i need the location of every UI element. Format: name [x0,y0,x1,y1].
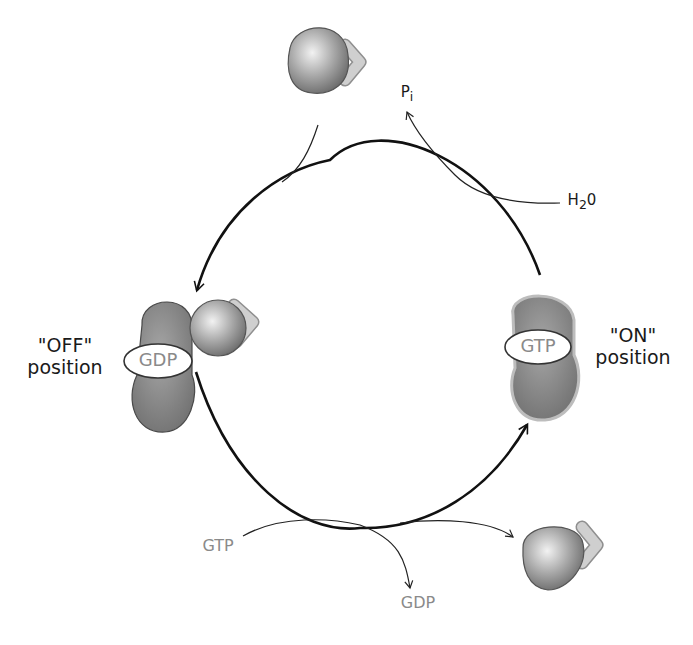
h2o-tail: 0 [587,191,597,209]
off-position-label: "OFF" position [10,335,120,379]
off-label-line2: position [10,357,120,379]
h2o-label: H20 [562,192,602,212]
cycle-arrow-bottom [196,372,527,529]
on-label-line1: "ON" [578,325,688,347]
gtp-input-label: GTP [196,537,240,555]
diagram-graphics [0,0,693,645]
on-position-label: "ON" position [578,325,688,369]
gtp-bound-label: GTP [505,336,571,357]
gtpase-cycle-diagram: "OFF" position "ON" position GDP GTP Pi … [0,0,693,645]
pi-sub: i [410,89,413,104]
h2o-base: H [568,191,579,209]
gef-out-arrow [400,521,513,537]
pi-label: Pi [392,84,422,104]
hydrolysis-arrow [407,112,560,203]
gap-protein-top [288,28,360,93]
on-label-line2: position [578,347,688,369]
cycle-arrow-top [197,141,540,290]
gdp-bound-label: GDP [126,350,190,371]
on-state-protein [505,296,579,420]
h2o-sub: 2 [579,197,587,212]
gtp-in-arrow [243,520,410,588]
pi-base: P [401,83,410,101]
gap-entry-line [282,125,318,182]
off-label-line1: "OFF" [10,335,120,357]
gef-protein-bottom [523,527,597,590]
gdp-output-label: GDP [396,594,440,612]
